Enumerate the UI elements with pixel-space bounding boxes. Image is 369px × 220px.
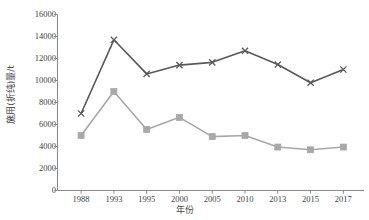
data-point-series-light [176, 114, 182, 120]
data-line-series-dark [81, 40, 343, 114]
data-point-series-light [275, 144, 281, 150]
data-point-series-light [78, 133, 84, 139]
data-point-series-dark [78, 110, 84, 116]
data-point-series-dark [111, 37, 117, 43]
chart-container: 施用(折纯)量/t 年份 020004000600080001000012000… [0, 0, 369, 220]
data-point-series-light [308, 147, 314, 153]
data-point-series-dark [307, 80, 313, 86]
data-point-series-light [111, 89, 117, 95]
data-point-series-light [340, 144, 346, 150]
data-point-series-dark [275, 61, 281, 67]
data-point-series-light [242, 133, 248, 139]
plot-area [0, 0, 369, 220]
data-point-series-light [209, 134, 215, 140]
data-point-series-light [144, 126, 150, 132]
data-point-series-dark [340, 66, 346, 72]
data-line-series-light [81, 92, 343, 150]
